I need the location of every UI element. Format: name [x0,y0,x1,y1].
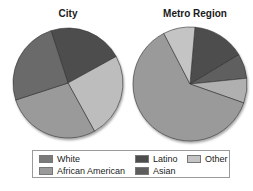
legend-swatch-other [187,155,201,163]
legend-item-asian: Asian [135,165,176,176]
pie-charts [0,0,253,150]
legend-label: African American [57,166,125,176]
legend-swatch-latino [135,155,149,163]
legend-label: Other [205,154,228,164]
legend-swatch-white [39,155,53,163]
legend-item-african-american: African American [39,165,125,176]
legend-item-white: White [39,153,80,164]
legend-label: Latino [153,154,178,164]
metro-pie [133,27,247,141]
legend-item-latino: Latino [135,153,178,164]
legend-label: White [57,154,80,164]
legend-item-other: Other [187,153,228,164]
chart-legend: White African American Latino Asian Othe… [32,150,230,178]
legend-swatch-african-american [39,167,53,175]
city-pie [13,28,123,138]
legend-label: Asian [153,166,176,176]
legend-swatch-asian [135,167,149,175]
